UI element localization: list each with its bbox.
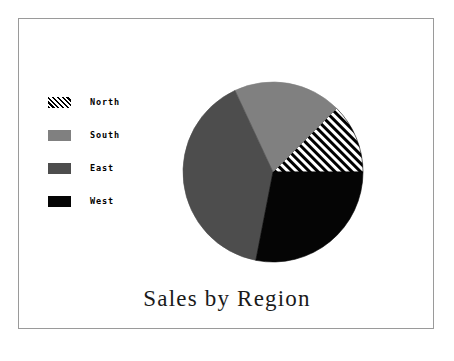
legend-swatch-west — [48, 196, 71, 207]
legend-label-north: North — [90, 94, 120, 110]
legend-item-south[interactable]: South — [48, 127, 158, 160]
legend-label-east: East — [90, 160, 114, 176]
pie-slice-west[interactable] — [256, 172, 363, 262]
chart-legend: North South East West — [48, 94, 158, 226]
legend-label-west: West — [90, 193, 114, 209]
chart-title: Sales by Region — [0, 286, 454, 312]
legend-item-east[interactable]: East — [48, 160, 158, 193]
legend-swatch-east — [48, 163, 71, 174]
chart-figure: North South East West Sales by Region — [0, 0, 454, 361]
legend-swatch-north — [48, 97, 71, 108]
legend-swatch-south — [48, 130, 71, 141]
legend-label-south: South — [90, 127, 120, 143]
legend-item-north[interactable]: North — [48, 94, 158, 127]
legend-item-west[interactable]: West — [48, 193, 158, 226]
